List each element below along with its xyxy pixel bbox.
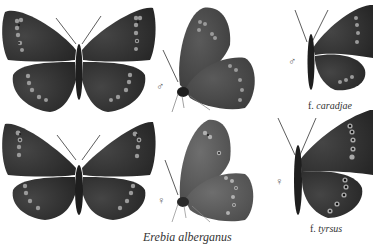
male-symbol-caradjae: ♂ [288, 55, 296, 67]
species-caption: Erebia alberganus [143, 230, 232, 245]
specimen-male-underside [163, 8, 255, 112]
specimen-female-tyrsus [278, 110, 373, 218]
specimen-male-caradjae [295, 5, 373, 90]
form-prefix: f. [310, 223, 316, 234]
form-prefix: f. [308, 100, 314, 111]
form-name: tyrsus [318, 223, 342, 234]
male-symbol: ♂ [156, 80, 164, 92]
female-symbol: ♀ [157, 194, 165, 206]
form-name: caradjae [316, 100, 352, 111]
specimen-female-underside [165, 120, 253, 222]
specimen-female-upperside [2, 122, 155, 220]
form-label-tyrsus: f. tyrsus [310, 223, 342, 234]
specimen-male-upperside [2, 8, 155, 112]
form-label-caradjae: f. caradjae [308, 100, 352, 111]
female-symbol-tyrsus: ♀ [275, 175, 283, 187]
